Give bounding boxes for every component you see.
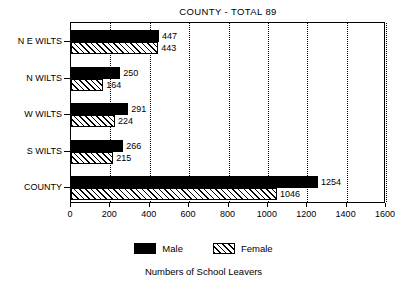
x-axis-label-0: 0 [50,209,90,219]
bar-male [71,176,318,188]
y-axis-tick [64,114,70,115]
x-axis-label-1200: 1200 [286,209,326,219]
bar-group: 250164 [71,67,384,91]
chart-caption: Numbers of School Leavers [0,266,407,277]
bar-female [71,79,103,91]
school-leavers-bar-chart: COUNTY - TOTAL 89 4474432501642912242662… [0,0,407,293]
chart-title: COUNTY - TOTAL 89 [70,6,386,17]
y-axis-tick [64,41,70,42]
y-axis-label-s-wilts: S WILTS [0,146,62,156]
bar-value-male: 291 [128,103,146,115]
legend-label-male: Male [162,243,183,254]
plot-area: 44744325016429122426621512541046 [70,22,385,203]
bar-value-female: 164 [103,79,121,91]
x-axis-label-1400: 1400 [326,209,366,219]
y-axis-tick [64,151,70,152]
x-axis-label-1000: 1000 [247,209,287,219]
bar-value-female: 224 [115,115,133,127]
y-axis-label-w-wilts: W WILTS [0,109,62,119]
x-axis-tick-600 [188,203,189,207]
x-axis-label-800: 800 [208,209,248,219]
bar-value-female: 443 [158,42,176,54]
y-axis-tick [64,187,70,188]
bar-group: 12541046 [71,176,384,200]
x-axis-tick-1600 [385,203,386,207]
gridline-1600 [386,23,387,202]
legend-label-female: Female [241,243,273,254]
bar-male [71,30,159,42]
x-axis-tick-400 [149,203,150,207]
bar-value-male: 1254 [318,176,341,188]
x-axis-label-600: 600 [168,209,208,219]
y-axis-label-n-e-wilts: N E WILTS [0,36,62,46]
x-axis-label-200: 200 [89,209,129,219]
bars-layer: 44744325016429122426621512541046 [71,23,384,202]
legend-swatch-male-icon [134,243,156,254]
y-axis-label-n-wilts: N WILTS [0,73,62,83]
bar-value-male: 447 [159,30,177,42]
bar-female [71,152,113,164]
bar-male [71,103,128,115]
x-axis-label-1600: 1600 [365,209,405,219]
legend-item-female: Female [213,243,273,254]
bar-group: 266215 [71,140,384,164]
legend-swatch-female-icon [213,243,235,254]
x-axis-tick-200 [109,203,110,207]
legend-item-male: Male [134,243,183,254]
bar-female [71,115,115,127]
x-axis-tick-0 [70,203,71,207]
bar-value-female: 1046 [277,188,300,200]
bar-male [71,67,120,79]
y-axis-tick [64,78,70,79]
bar-group: 447443 [71,30,384,54]
bar-group: 291224 [71,103,384,127]
bar-female [71,42,158,54]
x-axis-tick-1400 [346,203,347,207]
y-axis-label-county: COUNTY [0,182,62,192]
x-axis-label-400: 400 [129,209,169,219]
bar-female [71,188,277,200]
bar-value-female: 215 [113,152,131,164]
x-axis-tick-1200 [306,203,307,207]
x-axis-tick-1000 [267,203,268,207]
bar-value-male: 250 [120,67,138,79]
x-axis-tick-800 [228,203,229,207]
bar-value-male: 266 [123,140,141,152]
chart-legend: Male Female [0,243,407,254]
bar-male [71,140,123,152]
